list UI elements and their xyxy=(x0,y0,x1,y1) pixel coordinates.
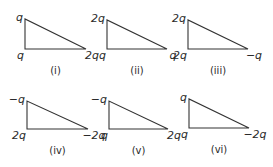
triangle-2: 2qqq(ii) xyxy=(91,12,176,76)
triangle-caption: (iii) xyxy=(210,65,226,76)
charge-label-top: 2q xyxy=(91,12,105,25)
charge-label-bottom-left: q xyxy=(99,49,106,62)
charge-label-bottom-left: 2q xyxy=(12,129,26,142)
charge-label-bottom-right: −2q xyxy=(243,128,266,141)
charge-label-top: q xyxy=(16,11,23,24)
charge-label-top: q xyxy=(180,91,187,104)
triangle-caption: (i) xyxy=(50,65,61,76)
triangle-caption: (iv) xyxy=(49,145,66,156)
charge-label-bottom-right: 2q xyxy=(167,129,181,142)
right-triangle-shape xyxy=(189,99,249,128)
triangle-1: qq2q(i) xyxy=(16,11,99,76)
triangle-6: qq−2q(vi) xyxy=(180,91,267,155)
charge-label-top: −q xyxy=(9,93,25,106)
charge-label-bottom-left: q xyxy=(101,129,108,142)
charge-label-bottom-left: q xyxy=(181,128,188,141)
charge-label-bottom-right: 2q xyxy=(85,49,99,62)
triangle-5: −qq2q(v) xyxy=(91,93,181,156)
triangle-caption: (vi) xyxy=(211,144,228,155)
charge-label-top: −q xyxy=(91,93,107,106)
triangle-3: 2q2q−q(iii) xyxy=(172,12,262,76)
charge-label-top: 2q xyxy=(172,12,186,25)
charge-label-bottom-left: 2q xyxy=(173,49,187,62)
right-triangle-shape xyxy=(25,19,86,49)
charge-label-bottom-left: q xyxy=(17,49,24,62)
triangle-caption: (v) xyxy=(132,145,146,156)
triangle-caption: (ii) xyxy=(130,65,143,76)
charge-label-bottom-right: −q xyxy=(246,49,262,62)
right-triangle-shape xyxy=(188,20,248,49)
charge-triangles-diagram: qq2q(i)2qqq(ii)2q2q−q(iii)−q2q−2q(iv)−qq… xyxy=(0,0,273,167)
right-triangle-shape xyxy=(107,20,167,49)
right-triangle-shape xyxy=(109,101,168,129)
right-triangle-shape xyxy=(27,101,88,129)
